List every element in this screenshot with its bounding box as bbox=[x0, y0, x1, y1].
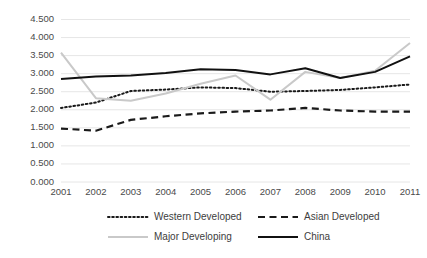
x-tick-label: 2008 bbox=[295, 186, 316, 197]
y-tick-label: 4.500 bbox=[30, 13, 54, 24]
gridlines bbox=[61, 20, 410, 183]
series-line bbox=[61, 85, 410, 108]
y-tick-label: 0.500 bbox=[30, 157, 54, 168]
data-series-layer bbox=[61, 43, 410, 131]
chart-canvas: 0.0000.5001.0001.5002.0002.5003.0003.500… bbox=[0, 0, 427, 258]
y-tick-label: 3.000 bbox=[30, 67, 54, 78]
y-tick-label: 1.000 bbox=[30, 139, 54, 150]
y-axis-tick-labels: 0.0000.5001.0001.5002.0002.5003.0003.500… bbox=[30, 13, 54, 187]
y-tick-label: 3.500 bbox=[30, 49, 54, 60]
x-tick-label: 2006 bbox=[225, 186, 246, 197]
y-tick-label: 1.500 bbox=[30, 121, 54, 132]
x-tick-label: 2001 bbox=[50, 186, 71, 197]
legend-label: Asian Developed bbox=[304, 211, 380, 222]
x-tick-label: 2009 bbox=[330, 186, 351, 197]
y-tick-label: 2.500 bbox=[30, 85, 54, 96]
legend-label: Major Developing bbox=[154, 231, 232, 242]
x-tick-label: 2002 bbox=[85, 186, 106, 197]
x-tick-label: 2010 bbox=[365, 186, 386, 197]
y-tick-label: 2.000 bbox=[30, 103, 54, 114]
x-axis-tick-labels: 2001200220032004200520062007200820092010… bbox=[50, 186, 420, 197]
chart-legend: Western DevelopedAsian DevelopedMajor De… bbox=[108, 211, 380, 242]
y-tick-label: 4.000 bbox=[30, 31, 54, 42]
x-tick-label: 2004 bbox=[155, 186, 176, 197]
x-tick-label: 2003 bbox=[120, 186, 141, 197]
x-tick-label: 2005 bbox=[190, 186, 211, 197]
legend-label: China bbox=[304, 231, 331, 242]
line-chart: 0.0000.5001.0001.5002.0002.5003.0003.500… bbox=[0, 0, 427, 258]
series-line bbox=[61, 108, 410, 131]
legend-label: Western Developed bbox=[154, 211, 242, 222]
y-tick-label: 0.000 bbox=[30, 176, 54, 187]
x-tick-label: 2011 bbox=[400, 186, 420, 197]
x-tick-label: 2007 bbox=[260, 186, 281, 197]
